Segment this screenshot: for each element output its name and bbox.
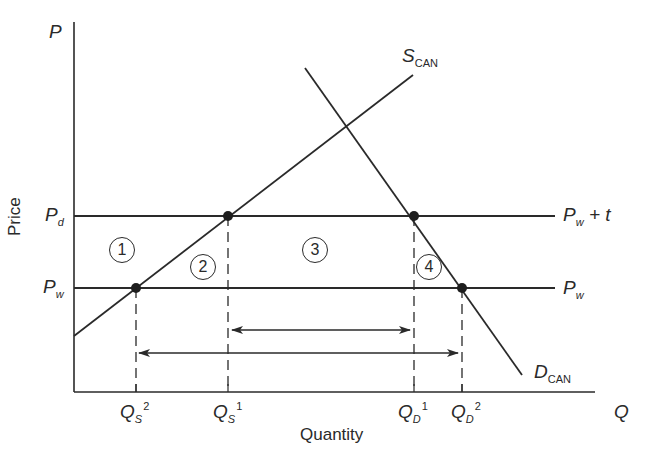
x-axis-label: Q [614, 402, 629, 421]
demand-curve-label: DCAN [534, 362, 571, 381]
tariff-diagram-canvas [0, 0, 645, 453]
x-axis-title: Quantity [300, 426, 363, 443]
region-4-marker: 4 [416, 254, 442, 280]
y-axis-title: Price [6, 197, 23, 236]
point-qd2-pw [457, 283, 467, 293]
region-2-marker: 2 [190, 254, 216, 280]
point-qd1-pd [409, 211, 419, 221]
y-axis-label: P [49, 22, 62, 41]
qs1-label: QS1 [213, 402, 242, 421]
point-qs2-pw [131, 283, 141, 293]
pw-plus-t-label: Pw + t [563, 205, 611, 224]
pw-right-label: Pw [563, 278, 584, 297]
pw-label: Pw [43, 277, 64, 296]
qd1-label: QD1 [398, 402, 428, 421]
qs2-label: QS2 [120, 402, 149, 421]
region-3-marker: 3 [302, 237, 328, 263]
pd-label: Pd [45, 205, 64, 224]
region-1-marker: 1 [109, 237, 135, 263]
point-qs1-pd [223, 211, 233, 221]
supply-curve [74, 75, 413, 336]
qd2-label: QD2 [451, 402, 481, 421]
supply-curve-label: SCAN [402, 46, 438, 65]
